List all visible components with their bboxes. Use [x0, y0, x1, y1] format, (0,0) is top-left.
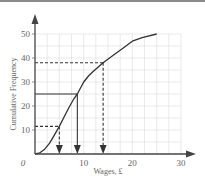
y-axis-label: Cumulative Frequency — [9, 57, 18, 130]
x-axis-label: Wages, £ — [93, 167, 122, 176]
y-tick-label: 30 — [21, 77, 31, 87]
y-axis-arrow-icon — [32, 14, 39, 24]
origin-label: 0 — [21, 158, 26, 168]
y-tick-label: 40 — [21, 53, 31, 63]
x-tick-label: 10 — [79, 158, 89, 168]
x-tick-label: 30 — [177, 158, 187, 168]
down-arrow-icon — [56, 145, 63, 154]
y-tick-label: 50 — [21, 29, 31, 39]
cumulative-frequency-chart: 10203040501020300Wages, £Cumulative Freq… — [0, 0, 205, 185]
x-axis-arrow-icon — [186, 151, 196, 158]
down-arrow-icon — [74, 145, 81, 154]
y-tick-label: 10 — [21, 125, 31, 135]
down-arrow-icon — [100, 145, 107, 154]
y-tick-label: 20 — [21, 101, 31, 111]
x-tick-label: 20 — [128, 158, 138, 168]
